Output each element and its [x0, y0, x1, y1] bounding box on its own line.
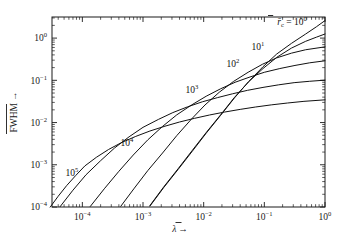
curve-label-rc-10-1: 101: [252, 40, 265, 52]
plot-frame: [52, 17, 325, 207]
curve-label-rc-10-2: 102: [227, 57, 240, 69]
y-tick-label: 10−4: [30, 200, 47, 212]
curve-rc-10-3: [90, 61, 325, 207]
x-axis-arrow: →: [178, 224, 188, 234]
curve-rc-10-0: [150, 21, 325, 207]
y-tick-label: 10−2: [30, 116, 47, 128]
y-axis-title: FWHM→: [7, 91, 20, 134]
x-tick-label: 10−2: [195, 210, 212, 222]
curve-rc-10-4: [60, 80, 325, 207]
curve-label-rc-10-3: 103: [186, 83, 200, 95]
major-tick-marks: [52, 17, 325, 207]
x-axis-title: λ→: [171, 223, 188, 235]
y-tick-label: 10−3: [30, 158, 47, 170]
svg-text:FWHM→: FWHM→: [9, 91, 19, 132]
chart-plot: 10−410−310−210−1100 10−410−310−210−1100 …: [0, 0, 349, 240]
y-axis-arrow: →: [9, 91, 19, 101]
x-axis-tick-labels: 10−410−310−210−1100: [74, 210, 332, 222]
x-tick-label: 10−3: [135, 210, 152, 222]
curve-label-rc-10-5: 105: [66, 166, 80, 178]
figure-container: 10−410−310−210−1100 10−410−310−210−1100 …: [0, 0, 349, 240]
y-tick-label: 10−1: [30, 74, 47, 86]
x-tick-label: 100: [319, 210, 333, 222]
x-tick-label: 10−4: [74, 210, 91, 222]
y-tick-label: 100: [34, 31, 48, 43]
x-axis-symbol: λ: [171, 224, 176, 234]
x-tick-label: 10−1: [256, 210, 273, 222]
curve-rc-10-2: [121, 47, 325, 206]
data-curves: [50, 21, 325, 208]
curve-rc-10-5: [50, 100, 325, 207]
svg-text:λ→: λ→: [171, 224, 188, 234]
y-axis-tick-labels: 10−410−310−210−1100: [30, 31, 47, 212]
y-axis-text: FWHM: [9, 102, 19, 132]
curve-label-rc-10-4: 104: [121, 136, 135, 148]
